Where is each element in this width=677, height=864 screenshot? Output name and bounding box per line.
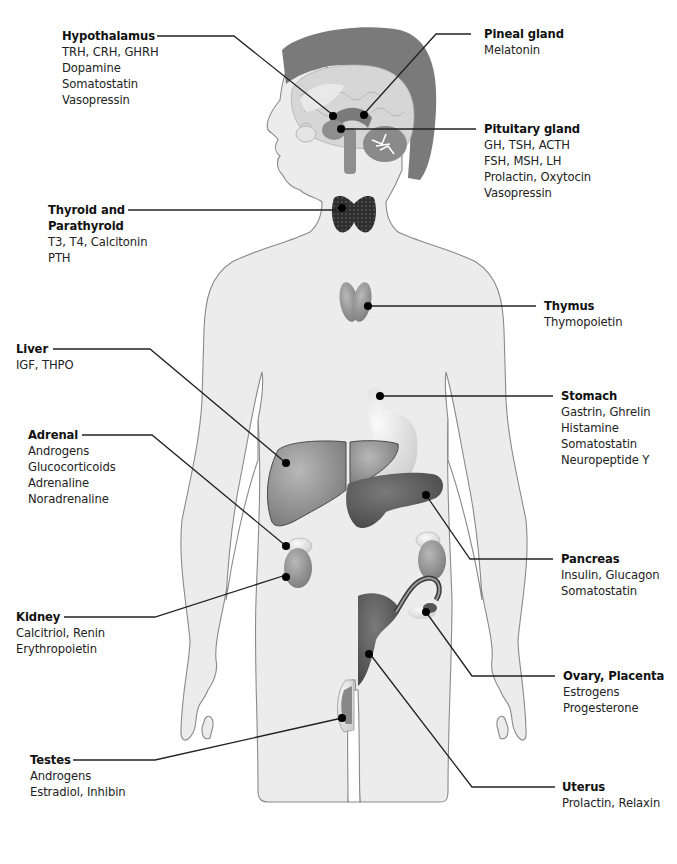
hormone: Erythropoietin — [16, 641, 105, 657]
label-pituitary: Pituitary gland GH, TSH, ACTH FSH, MSH, … — [484, 121, 591, 201]
label-pineal: Pineal gland Melatonin — [484, 26, 564, 58]
hormone: Insulin, Glucagon — [561, 567, 659, 583]
label-title: Ovary, Placenta — [563, 668, 664, 684]
label-title: Testes — [30, 752, 126, 768]
label-uterus: Uterus Prolactin, Relaxin — [562, 779, 660, 811]
hormone: T3, T4, Calcitonin — [48, 234, 147, 250]
label-title: Thymus — [544, 298, 622, 314]
label-title: Liver — [16, 341, 73, 357]
label-thymus: Thymus Thymopoietin — [544, 298, 622, 330]
eye-region — [296, 126, 316, 142]
hormone: Progesterone — [563, 700, 664, 716]
label-testes: Testes Androgens Estradiol, Inhibin — [30, 752, 126, 800]
label-title: Pancreas — [561, 551, 659, 567]
hormone: Adrenaline — [28, 475, 116, 491]
dot-kidney — [282, 573, 290, 581]
dot-ovary — [422, 608, 430, 616]
hormone: Dopamine — [62, 60, 159, 76]
hormone: Androgens — [30, 768, 126, 784]
label-title: Adrenal — [28, 427, 116, 443]
hormone: Vasopressin — [484, 185, 591, 201]
right-kidney — [418, 540, 446, 580]
label-title: Thyroid and — [48, 202, 147, 218]
hormone: PTH — [48, 250, 147, 266]
brainstem — [344, 128, 356, 174]
hormone: Somatostatin — [561, 583, 659, 599]
left-kidney — [284, 548, 312, 588]
label-kidney: Kidney Calcitriol, Renin Erythropoietin — [16, 609, 105, 657]
hormone: Thymopoietin — [544, 314, 622, 330]
hormone: Vasopressin — [62, 92, 159, 108]
hormone: Somatostatin — [62, 76, 159, 92]
label-thyroid: Thyroid and Parathyroid T3, T4, Calciton… — [48, 202, 147, 266]
hormone: Androgens — [28, 443, 116, 459]
dot-pineal — [360, 111, 368, 119]
label-title: Uterus — [562, 779, 660, 795]
hormone: Somatostatin — [561, 436, 651, 452]
label-liver: Liver IGF, THPO — [16, 341, 73, 373]
dot-testes — [338, 714, 346, 722]
label-ovary-placenta: Ovary, Placenta Estrogens Progesterone — [563, 668, 664, 716]
dot-stomach — [376, 392, 384, 400]
dot-pancreas — [422, 491, 430, 499]
label-pancreas: Pancreas Insulin, Glucagon Somatostatin — [561, 551, 659, 599]
label-hypothalamus: Hypothalamus TRH, CRH, GHRH Dopamine Som… — [62, 28, 159, 108]
dot-thymus — [364, 302, 372, 310]
label-title: Pituitary gland — [484, 121, 591, 137]
hormone: Glucocorticoids — [28, 459, 116, 475]
label-title: Pineal gland — [484, 26, 564, 42]
label-title: Stomach — [561, 388, 651, 404]
dot-hypothalamus — [329, 112, 337, 120]
hormone: Estrogens — [563, 684, 664, 700]
hormone: IGF, THPO — [16, 357, 73, 373]
hormone: Gastrin, Ghrelin — [561, 404, 651, 420]
left-thumb — [202, 716, 213, 739]
hormone: GH, TSH, ACTH — [484, 137, 591, 153]
right-thumb — [497, 716, 508, 739]
label-title: Hypothalamus — [62, 28, 159, 44]
hormone: Prolactin, Oxytocin — [484, 169, 591, 185]
dot-uterus — [365, 650, 373, 658]
hormone: Neuropeptide Y — [561, 452, 651, 468]
hormone: FSH, MSH, LH — [484, 153, 591, 169]
label-stomach: Stomach Gastrin, Ghrelin Histamine Somat… — [561, 388, 651, 468]
hormone: Prolactin, Relaxin — [562, 795, 660, 811]
hormone: TRH, CRH, GHRH — [62, 44, 159, 60]
hormone: Calcitriol, Renin — [16, 625, 105, 641]
dot-adrenal — [282, 542, 290, 550]
hormone: Noradrenaline — [28, 491, 116, 507]
hormone: Histamine — [561, 420, 651, 436]
hormone: Melatonin — [484, 42, 564, 58]
label-adrenal: Adrenal Androgens Glucocorticoids Adrena… — [28, 427, 116, 507]
hormone: Estradiol, Inhibin — [30, 784, 126, 800]
dot-pituitary — [337, 125, 345, 133]
label-title: Kidney — [16, 609, 105, 625]
dot-thyroid — [338, 204, 346, 212]
label-title: Parathyroid — [48, 218, 147, 234]
dot-liver — [282, 459, 290, 467]
cerebellum — [363, 126, 407, 162]
